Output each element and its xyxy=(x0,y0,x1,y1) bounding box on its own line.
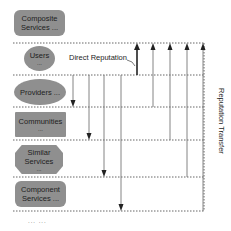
node-label: Communities xyxy=(19,117,63,126)
node-label: ... xyxy=(36,166,41,172)
node-label: ... xyxy=(37,60,42,66)
node-similar-services: Similar Services ... xyxy=(15,145,63,174)
node-communities: Communities ... xyxy=(15,112,66,137)
direct-reputation-label: Direct Reputation xyxy=(69,53,127,62)
node-label: Users xyxy=(30,51,50,60)
node-composite-services: Composite Services ... xyxy=(14,10,65,36)
node-label: ... xyxy=(38,126,43,132)
node-label: Providers ... xyxy=(20,88,60,97)
node-label: Composite xyxy=(22,14,58,23)
transfer-up-arrows xyxy=(153,49,203,211)
reputation-transfer-label: Reputation Transfer xyxy=(217,88,226,154)
node-label: Services ... xyxy=(21,23,58,32)
node-component-services: Component Services ... xyxy=(15,181,66,207)
node-label: Component xyxy=(21,185,60,194)
node-users: Users ... xyxy=(24,46,55,71)
node-label: Similar xyxy=(28,148,51,157)
node-label: Services xyxy=(25,157,54,166)
more-ellipsis: ... ... xyxy=(28,218,47,224)
direct-reputation-arrow xyxy=(134,43,140,75)
node-providers: Providers ... xyxy=(14,79,66,105)
node-label: Services ... xyxy=(22,194,59,203)
